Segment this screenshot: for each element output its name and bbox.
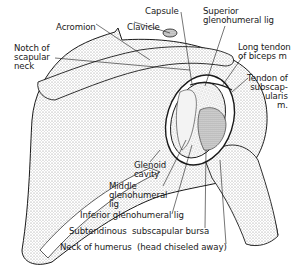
label-superior-glenohumeral-lig: Superior glenohumeral lig <box>203 7 274 25</box>
label-clavicle: Clavicle <box>127 23 160 32</box>
label-subtendinous-subscapular-bursa: Subtendinous subscapular bursa <box>69 227 209 236</box>
label-tendon-of-subscapularis: Tendon of subscap- ularis m. <box>247 74 288 110</box>
label-glenoid-cavity: Glenoid cavity <box>134 161 166 179</box>
label-inferior-glenohumeral-lig: Inferior glenohumeral lig <box>80 211 184 220</box>
shoulder-diagram: Acromion Clavicle Capsule Superior gleno… <box>0 0 302 270</box>
label-notch-of-scapular-neck: Notch of scapular neck <box>14 44 50 71</box>
label-long-tendon-biceps: Long tendon of biceps m <box>238 43 291 61</box>
label-capsule: Capsule <box>145 7 179 16</box>
label-neck-of-humerus: Neck of humerus (head chiseled away) <box>60 243 227 252</box>
humerus-shaft <box>205 145 278 246</box>
label-middle-glenohumeral-lig: Middle glenohumeral lig <box>109 182 167 209</box>
label-acromion: Acromion <box>56 23 96 32</box>
